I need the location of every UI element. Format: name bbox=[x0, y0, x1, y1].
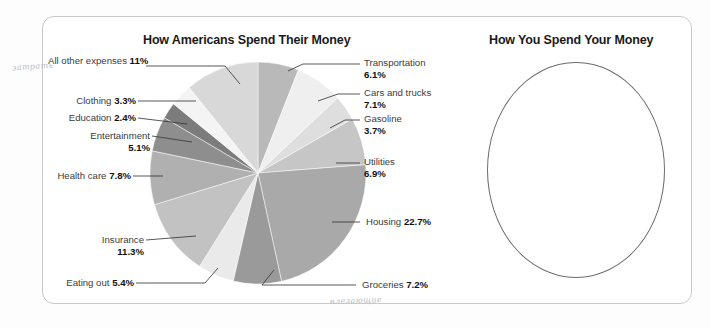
label-cars-and-trucks-text: Cars and trucks bbox=[364, 87, 431, 98]
label-groceries: Groceries 7.2% bbox=[362, 279, 428, 291]
left-chart-title: How Americans Spend Their Money bbox=[143, 33, 350, 47]
label-health-care: Health care 7.8% bbox=[33, 170, 131, 182]
page-root: How Americans Spend Their Money How You … bbox=[0, 0, 711, 328]
label-transportation-value: 6.1% bbox=[364, 69, 386, 80]
label-health-care-value: 7.8% bbox=[109, 170, 131, 181]
pie-chart-svg bbox=[150, 62, 366, 284]
label-utilities-value: 6.9% bbox=[364, 168, 386, 179]
label-cars-and-trucks: Cars and trucks 7.1% bbox=[364, 87, 431, 112]
label-insurance-text: Insurance bbox=[102, 234, 144, 245]
label-housing-text: Housing bbox=[366, 216, 401, 227]
label-clothing-value: 3.3% bbox=[114, 95, 136, 106]
label-eating-out: Eating out 5.4% bbox=[36, 277, 134, 289]
label-groceries-value: 7.2% bbox=[406, 279, 428, 290]
label-entertainment-text: Entertainment bbox=[90, 130, 150, 141]
label-all-other-expenses: All other expenses 11% bbox=[48, 55, 146, 67]
label-eating-out-text: Eating out bbox=[66, 277, 109, 288]
pie-slices bbox=[150, 62, 366, 284]
label-gasoline-value: 3.7% bbox=[364, 125, 386, 136]
label-groceries-text: Groceries bbox=[362, 279, 404, 290]
pie-chart bbox=[150, 62, 366, 284]
label-health-care-text: Health care bbox=[57, 170, 106, 181]
label-gasoline-text: Gasoline bbox=[364, 113, 402, 124]
label-entertainment-value: 5.1% bbox=[128, 142, 150, 153]
right-chart-title: How You Spend Your Money bbox=[489, 33, 653, 47]
label-utilities-text: Utilities bbox=[364, 156, 395, 167]
label-insurance: Insurance 11.3% bbox=[46, 234, 144, 259]
label-eating-out-value: 5.4% bbox=[112, 277, 134, 288]
label-transportation-text: Transportation bbox=[364, 57, 426, 68]
label-education: Education 2.4% bbox=[38, 112, 136, 124]
label-gasoline: Gasoline 3.7% bbox=[364, 113, 402, 138]
label-housing-value: 22.7% bbox=[404, 216, 431, 227]
label-clothing: Clothing 3.3% bbox=[38, 95, 136, 107]
label-all-other-expenses-value: 11% bbox=[130, 55, 149, 66]
handwritten-note-bottom: влезающие bbox=[330, 295, 382, 306]
label-insurance-value: 11.3% bbox=[117, 246, 144, 257]
label-housing: Housing 22.7% bbox=[366, 216, 431, 228]
label-cars-and-trucks-value: 7.1% bbox=[364, 99, 386, 110]
label-utilities: Utilities 6.9% bbox=[364, 156, 395, 181]
label-education-text: Education bbox=[69, 112, 112, 123]
label-transportation: Transportation 6.1% bbox=[364, 57, 426, 82]
label-all-other-expenses-text: All other expenses bbox=[48, 55, 127, 66]
label-entertainment: Entertainment 5.1% bbox=[44, 130, 150, 155]
blank-pie-circle[interactable] bbox=[487, 62, 665, 278]
label-clothing-text: Clothing bbox=[76, 95, 111, 106]
label-education-value: 2.4% bbox=[114, 112, 136, 123]
